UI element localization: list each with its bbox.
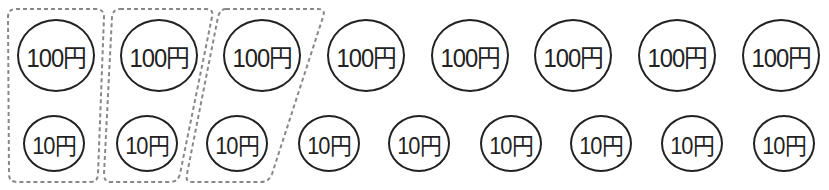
- coin-10-yen: 10円: [298, 115, 360, 172]
- coin-label: 100円: [647, 38, 707, 74]
- coin-label: 100円: [336, 38, 396, 74]
- coin-label: 100円: [543, 38, 603, 74]
- coin-100-yen: 100円: [534, 19, 612, 92]
- coin-label: 10円: [307, 127, 350, 161]
- coin-diagram: 100円 100円 100円 100円 100円 100円 100円 100円 …: [0, 0, 829, 190]
- coin-label: 10円: [125, 127, 168, 161]
- coin-100-yen: 100円: [742, 19, 820, 92]
- coin-100-yen: 100円: [223, 19, 301, 92]
- coin-label: 100円: [129, 38, 189, 74]
- coin-label: 10円: [762, 127, 805, 161]
- coin-100-yen: 100円: [17, 19, 95, 92]
- coin-10-yen: 10円: [570, 115, 632, 172]
- coin-label: 10円: [579, 127, 622, 161]
- coin-10-yen: 10円: [206, 115, 268, 172]
- coin-label: 100円: [751, 38, 811, 74]
- coin-10-yen: 10円: [661, 115, 723, 172]
- coin-label: 10円: [670, 127, 713, 161]
- coin-10-yen: 10円: [116, 115, 178, 172]
- coin-10-yen: 10円: [23, 115, 85, 172]
- coin-label: 100円: [26, 38, 86, 74]
- coin-100-yen: 100円: [638, 19, 716, 92]
- coin-100-yen: 100円: [431, 19, 509, 92]
- coin-label: 10円: [397, 127, 440, 161]
- coin-10-yen: 10円: [753, 115, 815, 172]
- coin-label: 10円: [32, 127, 75, 161]
- coin-label: 10円: [215, 127, 258, 161]
- coin-10-yen: 10円: [480, 115, 542, 172]
- coin-label: 100円: [440, 38, 500, 74]
- coin-100-yen: 100円: [120, 19, 198, 92]
- coin-label: 100円: [232, 38, 292, 74]
- coin-100-yen: 100円: [327, 19, 405, 92]
- coin-10-yen: 10円: [388, 115, 450, 172]
- coin-label: 10円: [489, 127, 532, 161]
